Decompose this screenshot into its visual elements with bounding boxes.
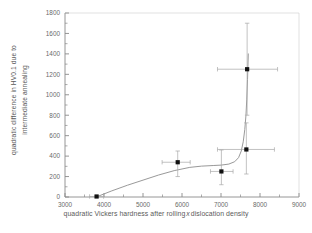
x-tick-label: 3000 [58, 201, 73, 208]
data-point-marker [244, 147, 248, 151]
y-tick-label: 0 [56, 193, 60, 200]
y-tick-label: 1200 [46, 71, 61, 78]
data-point-marker [219, 169, 223, 173]
error-bars [90, 23, 278, 198]
y-tick-label: 800 [49, 112, 60, 119]
x-axis-label: quadratic Vickers hardness after rolling… [0, 210, 312, 217]
y-tick-label: 1000 [46, 91, 61, 98]
y-tick-label: 200 [49, 173, 60, 180]
fit-curve-path [96, 54, 248, 197]
x-tick-label: 7000 [214, 201, 229, 208]
x-axis-label-part2: dislocation density [191, 210, 249, 217]
y-tick-label: 400 [49, 152, 60, 159]
x-axis-label-part1: quadratic Vickers hardness after rolling [64, 210, 186, 217]
data-point-marker [176, 160, 180, 164]
y-tick-label: 600 [49, 132, 60, 139]
scatter-plot: 0200400600800100012001400160018003000400… [0, 0, 312, 233]
data-point-marker [245, 67, 249, 71]
axis-tick-labels: 0200400600800100012001400160018003000400… [46, 9, 307, 208]
x-tick-label: 5000 [136, 201, 151, 208]
y-tick-label: 1400 [46, 50, 61, 57]
data-points [94, 67, 249, 198]
fit-curve [96, 54, 248, 197]
x-tick-label: 8000 [253, 201, 268, 208]
x-tick-label: 9000 [292, 201, 307, 208]
y-tick-label: 1600 [46, 30, 61, 37]
y-tick-label: 1800 [46, 9, 61, 16]
x-tick-label: 6000 [175, 201, 190, 208]
figure-container: quadratic difference in HV0.1 due to int… [0, 0, 312, 233]
data-point-marker [94, 194, 98, 198]
x-tick-label: 4000 [97, 201, 112, 208]
